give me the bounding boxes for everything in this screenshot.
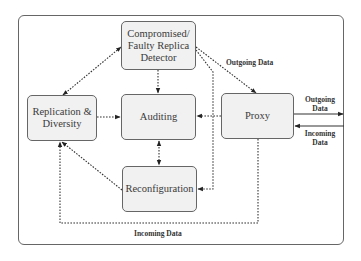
node-reconfiguration: Reconfiguration bbox=[122, 166, 197, 212]
label-proxy-incoming: Incoming Data bbox=[302, 129, 338, 147]
node-detector-line3: Detector bbox=[127, 52, 189, 64]
node-detector-line2: Faulty Replica bbox=[127, 40, 189, 52]
node-detector-line1: Compromised/ bbox=[127, 28, 189, 40]
edge-reconfiguration-replication bbox=[62, 142, 122, 190]
label-proxy-incoming-line1: Incoming bbox=[302, 129, 338, 138]
label-proxy-outgoing-line1: Outgoing bbox=[302, 95, 338, 104]
node-replication-line1: Replication & bbox=[32, 106, 91, 118]
label-proxy-outgoing: Outgoing Data bbox=[302, 95, 338, 113]
node-proxy-label: Proxy bbox=[245, 110, 270, 122]
label-detector-proxy: Outgoing Data bbox=[226, 58, 273, 67]
node-auditing-label: Auditing bbox=[140, 111, 177, 123]
node-auditing: Auditing bbox=[121, 94, 196, 140]
label-proxy-incoming-line2: Data bbox=[302, 138, 338, 147]
node-replication-line2: Diversity bbox=[32, 118, 91, 130]
edge-detector-proxy bbox=[196, 47, 256, 93]
node-proxy: Proxy bbox=[221, 93, 294, 139]
edge-replication-detector bbox=[63, 47, 121, 95]
node-replication: Replication & Diversity bbox=[27, 95, 97, 141]
edge-detector-reconfiguration bbox=[196, 50, 213, 189]
node-detector: Compromised/ Faulty Replica Detector bbox=[121, 21, 196, 70]
label-proxy-replication: Incoming Data bbox=[134, 229, 182, 238]
label-proxy-outgoing-line2: Data bbox=[302, 104, 338, 113]
node-reconfiguration-label: Reconfiguration bbox=[125, 183, 193, 195]
